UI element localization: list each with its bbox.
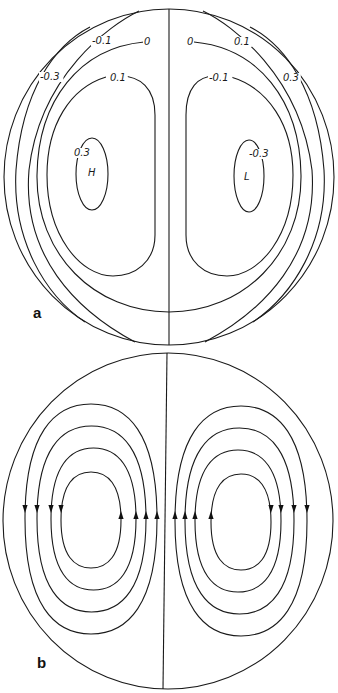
streamline-loop <box>195 450 281 592</box>
contour-value-label: 0 <box>144 36 150 47</box>
low-marker: L <box>244 171 250 182</box>
panel-a-contour-labels: -0.1000.1-0.30.1-0.10.30.3-0.3 <box>39 35 301 159</box>
flow-arrow-down-icon <box>268 505 273 513</box>
flow-arrow-up-icon <box>143 511 148 519</box>
contour-value-label: 0.3 <box>74 147 90 158</box>
panel-b-label: b <box>37 654 46 671</box>
flow-arrow-down-icon <box>291 505 296 513</box>
contour-value-label: -0.3 <box>249 148 269 159</box>
contour-minus-0.1-left <box>28 11 139 342</box>
flow-arrow-down-icon <box>278 505 283 513</box>
panel-a-label: a <box>33 304 42 321</box>
panel-a-contour-map: -0.1000.1-0.30.1-0.10.30.3-0.3 HL a <box>4 9 334 345</box>
flow-arrow-down-icon <box>48 505 53 513</box>
high-marker: H <box>88 167 96 178</box>
panel-b-boundary-circle <box>3 353 333 689</box>
flow-arrow-up-icon <box>133 511 138 519</box>
contour-value-label: -0.1 <box>92 35 112 46</box>
flow-arrow-down-icon <box>22 505 27 513</box>
contour-0.1-left-loop <box>47 76 155 276</box>
figure-canvas: -0.1000.1-0.30.1-0.10.30.3-0.3 HL a b <box>0 0 338 693</box>
panel-b-center-axis <box>163 353 167 689</box>
flow-arrow-up-icon <box>192 511 197 519</box>
contour-value-label: -0.3 <box>40 71 60 82</box>
contour-minus-0.1-right <box>203 11 312 342</box>
flow-arrow-up-icon <box>118 511 123 519</box>
flow-arrow-up-icon <box>182 511 187 519</box>
contour-value-label: 0 <box>187 36 193 47</box>
contour-value-label: 0.1 <box>110 72 126 83</box>
flow-arrow-down-icon <box>304 505 309 513</box>
streamline-loop <box>211 474 271 570</box>
streamline-loop <box>37 426 146 612</box>
contour-value-label: -0.1 <box>209 72 229 83</box>
contour-value-label: 0.3 <box>283 72 299 83</box>
streamline-loop <box>185 428 294 614</box>
streamline-loop <box>61 472 121 568</box>
flow-arrow-up-icon <box>208 511 213 519</box>
flow-arrow-up-icon <box>154 511 159 519</box>
flow-arrow-down-icon <box>58 505 63 513</box>
flow-arrow-up-icon <box>172 511 177 519</box>
flow-arrow-down-icon <box>34 505 39 513</box>
contour-value-label: 0.1 <box>234 36 250 47</box>
panel-b-streamlines: b <box>3 353 333 689</box>
contour-minus-0.1-right-loop <box>186 76 293 276</box>
right-circulation-cell <box>172 406 309 636</box>
left-circulation-cell <box>22 404 159 634</box>
